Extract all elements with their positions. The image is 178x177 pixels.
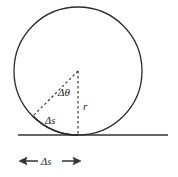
diagram-canvas: Δθ r Δs Δs Δs xyxy=(0,0,178,177)
arc-segment-highlight xyxy=(33,116,78,135)
angle-label: Δθ xyxy=(57,86,70,98)
rolling-wheel-diagram: Δθ r Δs Δs Δs xyxy=(0,0,178,177)
radius-label: r xyxy=(83,100,88,112)
arrow-left-icon xyxy=(19,157,27,165)
radius-diagonal-dashed-line xyxy=(33,71,78,116)
arc-length-label: Δs xyxy=(44,115,55,126)
arrow-right-icon xyxy=(73,157,81,165)
displacement-label-text: Δs xyxy=(40,156,51,167)
